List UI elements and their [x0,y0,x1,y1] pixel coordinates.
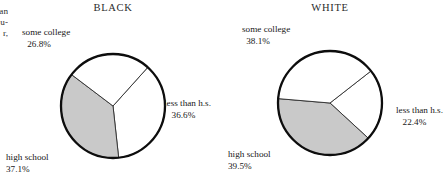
pie-label-black-less-than-hs-name: less than h.s. [164,98,211,110]
clipped-margin-line-3: r, [0,28,8,39]
chart-title-white: WHITE [311,2,348,13]
pie-label-white-high-school-value: 39.5% [228,161,278,173]
pie-label-black-some-college-name: some college [22,27,70,39]
pie-label-white-less-than-hs-value: 22.4% [396,117,443,129]
pie-label-black-less-than-hs-value: 36.6% [164,110,211,122]
pie-label-white-high-school: high school 39.5% [228,149,278,172]
pie-label-black-high-school: high school 37.1% [6,152,52,175]
clipped-margin-line-1: an [0,6,8,17]
clipped-margin-line-2: u- [0,17,8,28]
pie-label-white-less-than-hs-name: less than h.s. [396,105,443,117]
clipped-margin-text: an u- r, [0,6,8,39]
pie-chart-black [53,46,173,166]
pie-chart-white [270,43,390,163]
pie-label-black-high-school-name: high school [6,152,52,164]
pie-label-black-some-college-value: 26.8% [22,39,70,51]
pie-label-white-some-college: some college 38.1% [242,24,290,47]
pie-label-white-less-than-hs: less than h.s. 22.4% [396,105,443,128]
pie-label-black-some-college: some college 26.8% [22,27,70,50]
pie-label-black-high-school-value: 37.1% [6,164,52,176]
pie-label-white-some-college-name: some college [242,24,290,36]
pie-label-black-less-than-hs: less than h.s. 36.6% [164,98,211,121]
pie-label-white-some-college-value: 38.1% [242,36,290,48]
pie-label-white-high-school-name: high school [228,149,278,161]
chart-title-black: BLACK [93,2,132,13]
figure-canvas: an u- r, BLACK some college 26.8% less t… [0,0,448,180]
